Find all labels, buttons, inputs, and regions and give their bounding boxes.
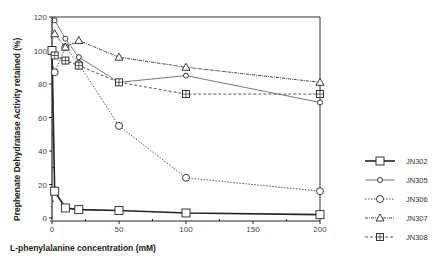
y-tick-label: 120 xyxy=(34,13,48,22)
x-tick-label: 200 xyxy=(313,225,327,234)
y-tick-label: 20 xyxy=(38,181,47,190)
legend-item-jn307: JN307 xyxy=(365,214,428,223)
line-chart: 020406080100120050100150200 JN302JN305JN… xyxy=(0,0,445,271)
y-tick-label: 80 xyxy=(38,80,47,89)
legend-item-jn308: JN308 xyxy=(365,233,428,242)
data-point-marker xyxy=(318,100,323,105)
data-point-marker xyxy=(52,18,57,23)
series-group xyxy=(48,18,324,219)
legend-item-jn302: JN302 xyxy=(365,157,428,166)
data-point-marker xyxy=(76,55,81,60)
data-point-marker xyxy=(316,211,324,219)
legend-marker xyxy=(377,196,384,203)
data-point-marker xyxy=(61,204,69,212)
data-point-marker xyxy=(75,36,83,43)
y-tick-label: 40 xyxy=(38,147,47,156)
x-axis-label: L-phenylalanine concentration (mM) xyxy=(10,243,156,253)
x-tick-label: 100 xyxy=(179,225,193,234)
x-tick-label: 150 xyxy=(246,225,260,234)
data-point-marker xyxy=(115,53,123,60)
legend-label: JN306 xyxy=(406,195,428,204)
y-tick-label: 0 xyxy=(43,214,48,223)
data-point-marker xyxy=(51,187,59,195)
legend-label: JN302 xyxy=(406,157,428,166)
legend-marker xyxy=(376,157,384,165)
y-tick-label: 100 xyxy=(34,47,48,56)
legend-label: JN305 xyxy=(406,176,428,185)
data-point-marker xyxy=(75,206,83,214)
legend-marker xyxy=(378,178,383,183)
x-tick-label: 50 xyxy=(115,225,124,234)
data-point-marker xyxy=(183,174,190,181)
data-point-marker xyxy=(116,122,123,129)
legend-label: JN308 xyxy=(406,233,428,242)
data-point-marker xyxy=(317,188,324,195)
y-tick-label: 60 xyxy=(38,114,47,123)
legend: JN302JN305JN306JN307JN308 xyxy=(365,157,428,242)
axes: 020406080100120050100150200 xyxy=(34,13,328,234)
series-jn302 xyxy=(48,47,324,219)
x-tick-label: 0 xyxy=(50,225,55,234)
data-point-marker xyxy=(316,78,324,85)
data-point-marker xyxy=(63,36,68,41)
legend-item-jn305: JN305 xyxy=(365,176,428,185)
data-point-marker xyxy=(182,209,190,217)
data-point-marker xyxy=(184,73,189,78)
legend-item-jn306: JN306 xyxy=(365,195,428,204)
y-axis-label: Prephenate Dehydratase Activity retained… xyxy=(12,37,22,221)
data-point-marker xyxy=(115,206,123,214)
legend-label: JN307 xyxy=(406,214,428,223)
data-point-marker xyxy=(51,69,58,76)
